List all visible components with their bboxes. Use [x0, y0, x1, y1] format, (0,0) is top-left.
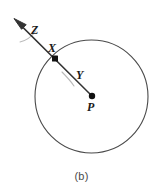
arc-mark-inner-icon [62, 72, 74, 86]
circle-diagram-svg [0, 0, 163, 190]
label-y: Y [76, 69, 83, 81]
point-x-marker [52, 56, 58, 62]
label-z: Z [31, 24, 38, 36]
point-p-marker [89, 93, 95, 99]
label-p: P [87, 101, 94, 113]
figure-caption: (b) [0, 170, 163, 182]
label-x: X [48, 42, 56, 54]
arrowhead-icon [14, 19, 26, 30]
geometry-figure: Z X Y P (b) [0, 0, 163, 190]
